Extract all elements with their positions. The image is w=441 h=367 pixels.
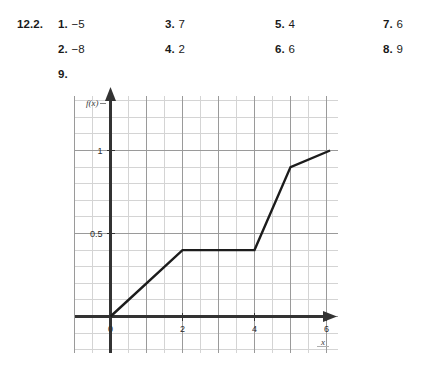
y-axis-arrowhead (105, 87, 116, 101)
answer-item-7-number: 7. (383, 18, 393, 30)
answer-item-3-value: 7 (179, 18, 185, 30)
answer-item-6-number: 6. (275, 43, 285, 55)
answer-item-1-value: −5 (72, 18, 85, 30)
axis-lines (75, 87, 338, 353)
answer-item-8: 8.9 (383, 43, 403, 55)
answer-key-block: 12.2. 1.−5 2.−8 3.7 4.2 5.4 6.6 7.6 8.9 … (0, 0, 441, 78)
axis-labels: 02460.51f(x)x (86, 98, 329, 347)
answer-item-2: 2.−8 (58, 43, 85, 55)
answer-item-1-number: 1. (58, 18, 68, 30)
y-axis-name-label: f(x) (86, 98, 99, 108)
answer-item-3-number: 3. (165, 18, 175, 30)
x-tick-label: 2 (180, 324, 185, 334)
x-axis-arrowhead (323, 311, 337, 322)
answer-item-6: 6.6 (275, 43, 295, 55)
answer-item-4-value: 2 (179, 43, 185, 55)
y-tick-label: 0.5 (90, 229, 103, 239)
answer-item-5: 5.4 (275, 18, 295, 30)
x-tick-label: 4 (252, 324, 257, 334)
answer-item-7-value: 6 (397, 18, 403, 30)
answer-item-5-value: 4 (289, 18, 295, 30)
answer-item-2-number: 2. (58, 43, 68, 55)
grid-major-lines (75, 96, 338, 353)
function-curve (111, 151, 331, 317)
answer-item-9-number: 9. (58, 68, 68, 80)
answer-item-8-value: 9 (397, 43, 403, 55)
answer-item-7: 7.6 (383, 18, 403, 30)
axis-tick-marks (107, 151, 327, 321)
answer-item-4-number: 4. (165, 43, 175, 55)
x-tick-label: 0 (108, 324, 113, 334)
x-axis-name-label: x (320, 337, 325, 347)
answer-item-3: 3.7 (165, 18, 185, 30)
function-polyline (111, 151, 331, 317)
answer-key-section-label: 12.2. (17, 18, 43, 30)
x-tick-label: 6 (324, 324, 329, 334)
answer-item-5-number: 5. (275, 18, 285, 30)
answer-item-6-value: 6 (289, 43, 295, 55)
grid-minor-lines (75, 96, 338, 353)
answer-item-8-number: 8. (383, 43, 393, 55)
answer-item-2-value: −8 (72, 43, 85, 55)
y-tick-label: 1 (97, 146, 102, 156)
answer-item-1: 1.−5 (58, 18, 85, 30)
answer-item-4: 4.2 (165, 43, 185, 55)
